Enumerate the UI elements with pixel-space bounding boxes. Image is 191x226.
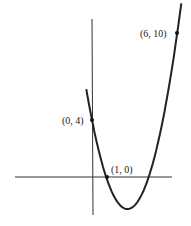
label-0-4: (0, 4) (62, 115, 84, 127)
point-0-4 (90, 118, 94, 122)
parabola-curve (86, 3, 181, 209)
point-1-0 (105, 175, 109, 179)
parabola-chart: (0, 4) (1, 0) (6, 10) (0, 0, 191, 226)
label-6-10: (6, 10) (140, 28, 167, 40)
label-1-0: (1, 0) (111, 164, 133, 176)
point-6-10 (175, 31, 179, 35)
